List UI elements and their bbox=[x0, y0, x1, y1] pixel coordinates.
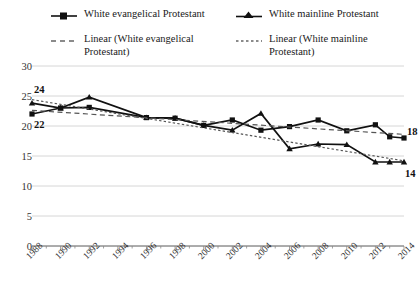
data-label-end-evangelical: 18 bbox=[407, 126, 418, 137]
data-label-start-mainline: 24 bbox=[34, 83, 45, 94]
data-label-start-evangelical: 22 bbox=[34, 119, 45, 130]
data-label-end-mainline: 14 bbox=[405, 168, 416, 179]
